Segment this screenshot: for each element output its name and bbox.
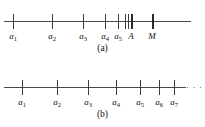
tick-label-bound-M: M (148, 32, 156, 41)
tick-a4 (116, 80, 117, 95)
ellipsis-dots: · · · (186, 83, 203, 92)
panel-b-caption: (b) (0, 110, 205, 120)
tick-label-a7: a7 (170, 98, 178, 107)
tick-a4 (105, 14, 106, 29)
tick-label-a6: a6 (155, 98, 163, 107)
tick-label-a5: a5 (136, 98, 144, 107)
tick-a6 (125, 14, 126, 29)
tick-a3 (88, 80, 89, 95)
tick-a2 (57, 80, 58, 95)
tick-label-a1: a1 (18, 98, 26, 107)
tick-a5 (140, 80, 141, 95)
number-line-figure: a1a2a3a4a5AM (a) a1a2a3a4a5a6a7 · · · (b… (0, 0, 205, 127)
tick-label-a2: a2 (48, 32, 56, 41)
tick-a5 (118, 14, 119, 29)
number-line-axis-a (4, 21, 191, 22)
tick-label-a1: a1 (9, 32, 17, 41)
tick-a1 (22, 80, 23, 95)
tick-label-a3: a3 (79, 32, 87, 41)
tick-label-a3: a3 (84, 98, 92, 107)
tick-a1 (13, 14, 14, 29)
tick-label-a2: a2 (53, 98, 61, 107)
tick-accumulation-point-A (131, 14, 133, 29)
tick-a2 (52, 14, 53, 29)
tick-label-a5: a5 (114, 32, 122, 41)
panel-b: a1a2a3a4a5a6a7 · · · (b) (0, 63, 205, 127)
tick-bound-M (152, 14, 154, 29)
tick-a7 (174, 80, 175, 95)
tick-a6 (159, 80, 160, 95)
tick-label-accumulation-point-A: A (128, 32, 134, 41)
tick-label-a4: a4 (101, 32, 109, 41)
tick-label-a4: a4 (112, 98, 120, 107)
tick-a3 (83, 14, 84, 29)
panel-a-caption: (a) (0, 44, 205, 54)
tick-a7 (128, 14, 129, 29)
panel-a: a1a2a3a4a5AM (a) (0, 0, 205, 63)
